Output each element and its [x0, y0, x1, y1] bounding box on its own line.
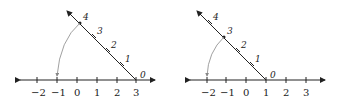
tick-label: 0	[243, 87, 249, 98]
diag-label: 1	[255, 54, 261, 64]
diagonal-line	[67, 11, 136, 80]
diag-label: 2	[110, 40, 117, 50]
right-figure: −2 −1 0 1 2 3 0 1 2 3 4	[190, 11, 325, 98]
tick-label: 1	[94, 87, 100, 98]
left-figure: −2 −1 0 1 2 3 0 1 2 3 4	[20, 11, 155, 98]
tick-label: 2	[283, 87, 289, 98]
diag-label: 3	[97, 26, 103, 36]
tick-label: −2	[201, 87, 216, 98]
arc	[207, 37, 224, 76]
diag-label: 4	[82, 12, 89, 22]
diag-label: 2	[240, 40, 247, 50]
number-line-diagrams: −2 −1 0 1 2 3 0 1 2 3 4 −2 −1 0 1 2 3	[0, 0, 340, 101]
tick-label: −2	[31, 87, 46, 98]
tick-label: 1	[263, 87, 269, 98]
tick-label: −1	[220, 87, 235, 98]
diag-label: 0	[270, 70, 276, 80]
diag-label: 1	[125, 54, 131, 64]
diag-label: 4	[212, 12, 219, 22]
diag-label: 3	[227, 26, 233, 36]
diag-label: 0	[140, 70, 146, 80]
tick-label: −1	[51, 87, 66, 98]
tick-label: 2	[114, 87, 120, 98]
tick-label: 3	[303, 87, 309, 98]
tick-label: 3	[133, 87, 139, 98]
arc	[57, 23, 80, 76]
tick-label: 0	[74, 87, 80, 98]
